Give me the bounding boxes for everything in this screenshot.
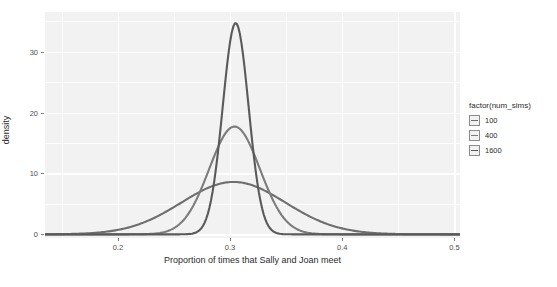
legend-key-swatch — [469, 115, 480, 126]
legend: factor(num_sims) 1004001600 — [469, 101, 554, 158]
y-tick-mark — [41, 234, 44, 235]
legend-key-swatch — [469, 145, 480, 156]
density-curve-1600 — [45, 23, 460, 234]
legend-item-label: 400 — [485, 131, 498, 140]
x-tick-label: 0.5 — [449, 243, 459, 252]
density-curve-100 — [45, 182, 460, 234]
y-tick-mark — [41, 113, 44, 114]
x-tick-mark — [118, 238, 119, 241]
legend-key-line — [471, 135, 478, 137]
x-tick-mark — [342, 238, 343, 241]
y-tick-mark — [41, 52, 44, 53]
x-tick-mark — [230, 238, 231, 241]
legend-title: factor(num_sims) — [469, 101, 554, 110]
y-tick-mark — [41, 173, 44, 174]
legend-item-1600[interactable]: 1600 — [469, 143, 554, 158]
x-tick-label: 0.4 — [337, 243, 347, 252]
y-axis-title: density — [1, 116, 11, 145]
density-plot: 0.20.30.40.50102030 Proportion of times … — [0, 0, 557, 287]
y-tick-label: 0 — [34, 230, 38, 239]
plot-panel — [45, 12, 460, 238]
x-tick-label: 0.2 — [113, 243, 123, 252]
legend-item-label: 1600 — [485, 146, 502, 155]
legend-item-400[interactable]: 400 — [469, 128, 554, 143]
legend-key-line — [471, 120, 478, 122]
legend-items: 1004001600 — [469, 113, 554, 158]
x-tick-mark — [454, 238, 455, 241]
y-tick-label: 20 — [30, 108, 38, 117]
legend-item-label: 100 — [485, 116, 498, 125]
y-tick-label: 10 — [30, 169, 38, 178]
legend-key-line — [471, 150, 478, 152]
y-tick-label: 30 — [30, 47, 38, 56]
legend-item-100[interactable]: 100 — [469, 113, 554, 128]
density-curves — [45, 12, 460, 238]
x-tick-label: 0.3 — [225, 243, 235, 252]
legend-key-swatch — [469, 130, 480, 141]
x-axis-title: Proportion of times that Sally and Joan … — [45, 255, 460, 265]
